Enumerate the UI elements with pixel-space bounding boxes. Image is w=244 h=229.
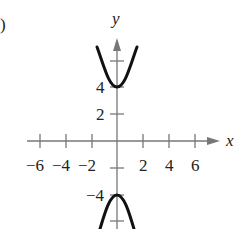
y-tick-label: −4	[86, 186, 105, 205]
x-tick-label: −4	[52, 156, 71, 175]
y-axis-arrow-icon	[113, 38, 121, 51]
panel-label: )	[0, 15, 6, 34]
y-axis-label: y	[110, 9, 120, 28]
x-tick-label: −2	[78, 156, 96, 175]
x-tick-label: 2	[139, 156, 148, 175]
x-tick-label: 4	[165, 156, 174, 175]
x-axis-label: x	[225, 131, 234, 150]
y-tick-label: 2	[96, 105, 105, 124]
x-tick-label: 6	[191, 156, 200, 175]
x-tick-label: −6	[26, 156, 44, 175]
hyperbola-graph: ) x y −6 −4 −2 2 4 6 4 2 −4	[0, 0, 244, 229]
y-tick-label: 4	[96, 78, 105, 97]
x-axis-arrow-icon	[207, 137, 220, 145]
